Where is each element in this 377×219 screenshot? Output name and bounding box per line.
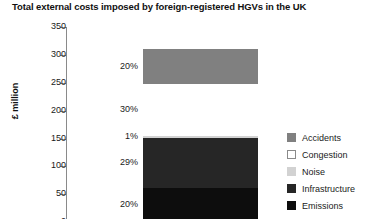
legend-item-congestion[interactable]: Congestion [287, 146, 355, 163]
segment-label-congestion: 30% [96, 104, 138, 114]
legend-item-noise[interactable]: Noise [287, 163, 355, 180]
bar-segment-infrastructure[interactable] [143, 138, 258, 188]
legend-label: Infrastructure [302, 184, 355, 194]
segment-label-accidents: 20% [96, 61, 138, 71]
y-tick-label: 350 [10, 21, 66, 31]
bar-segment-congestion[interactable] [143, 84, 258, 136]
segment-label-infrastructure: 29% [96, 157, 138, 167]
y-tick-label: 100 [10, 160, 66, 170]
legend-swatch-icon [287, 133, 296, 142]
legend-swatch-icon [287, 201, 296, 210]
legend-label: Emissions [302, 201, 343, 211]
legend-label: Accidents [302, 133, 341, 143]
legend-label: Noise [302, 167, 325, 177]
y-axis-title: £ million [10, 71, 20, 131]
bar-segment-emissions[interactable] [143, 188, 258, 219]
segment-label-noise: 1% [96, 131, 138, 141]
y-tick-label: 300 [10, 49, 66, 59]
y-axis-line [66, 27, 67, 219]
legend-swatch-icon [287, 150, 296, 159]
segment-label-emissions: 20% [96, 199, 138, 209]
legend-item-infrastructure[interactable]: Infrastructure [287, 180, 355, 197]
bar-segment-accidents[interactable] [143, 49, 258, 84]
legend-item-accidents[interactable]: Accidents [287, 129, 355, 146]
legend-swatch-icon [287, 184, 296, 193]
stacked-bar[interactable] [143, 49, 258, 219]
plot-area: 350 300 250 200 150 100 50 0 £ million 2… [0, 0, 377, 219]
legend-item-emissions[interactable]: Emissions [287, 197, 355, 214]
legend-label: Congestion [302, 150, 348, 160]
y-tick-label: 0 [10, 216, 66, 219]
chart-legend: Accidents Congestion Noise Infrastructur… [287, 129, 355, 214]
y-tick-label: 50 [10, 188, 66, 198]
legend-swatch-icon [287, 167, 296, 176]
y-tick-label: 150 [10, 133, 66, 143]
